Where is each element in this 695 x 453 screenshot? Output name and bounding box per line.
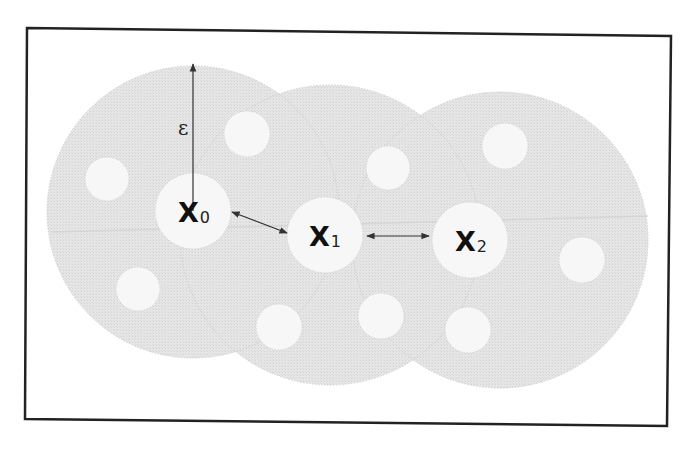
neighbor-point-8 (559, 237, 605, 283)
neighbor-point-5 (256, 304, 302, 350)
x0-label-subscript: 0 (200, 208, 210, 227)
neighbor-point-2 (116, 267, 160, 311)
x2-label-main: X (455, 226, 476, 257)
neighbor-point-7 (445, 307, 491, 353)
diagram-canvas: ε X0 X1 X2 (0, 0, 695, 453)
neighbor-point-4 (482, 123, 528, 169)
x2-label-subscript: 2 (477, 237, 487, 256)
x0-label-main: X (178, 197, 199, 228)
neighbor-point-0 (85, 157, 129, 201)
neighbor-point-1 (224, 111, 270, 157)
neighbor-point-3 (366, 146, 410, 190)
neighbor-point-6 (358, 293, 404, 339)
epsilon-label: ε (178, 116, 188, 140)
x1-label-subscript: 1 (331, 232, 341, 251)
x1-label-main: X (309, 221, 330, 252)
